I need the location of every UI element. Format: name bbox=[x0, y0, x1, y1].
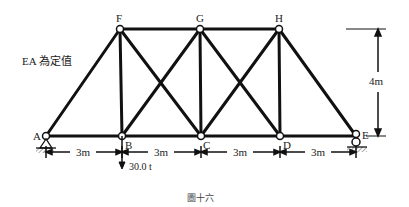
joint-H bbox=[276, 26, 283, 33]
span-3-label: 3m bbox=[233, 146, 248, 158]
truss-members bbox=[46, 29, 356, 136]
member-HD bbox=[279, 29, 280, 136]
joint-F bbox=[117, 26, 124, 33]
joint-G bbox=[197, 26, 204, 33]
label-F: F bbox=[116, 12, 122, 24]
load-label: 30.0 t bbox=[129, 161, 152, 172]
joint-E bbox=[353, 131, 360, 138]
figure-caption: 圖十六 bbox=[187, 192, 214, 203]
label-G: G bbox=[196, 12, 204, 24]
span-1-label: 3m bbox=[76, 146, 91, 158]
span-4-label: 3m bbox=[311, 146, 326, 158]
member-HE bbox=[279, 29, 356, 136]
span-2-label: 3m bbox=[154, 146, 169, 158]
ea-note: EA 為定值 bbox=[22, 54, 72, 67]
label-A: A bbox=[33, 130, 41, 142]
label-H: H bbox=[275, 12, 283, 24]
member-AF bbox=[46, 29, 120, 136]
height-label: 4m bbox=[369, 75, 384, 87]
label-D: D bbox=[283, 139, 291, 151]
member-GC bbox=[200, 29, 201, 136]
label-E: E bbox=[362, 129, 369, 141]
member-FB bbox=[120, 29, 122, 136]
truss-diagram: A B C D E F G H EA 為定值 3m 3m 3m 3m bbox=[0, 0, 409, 207]
